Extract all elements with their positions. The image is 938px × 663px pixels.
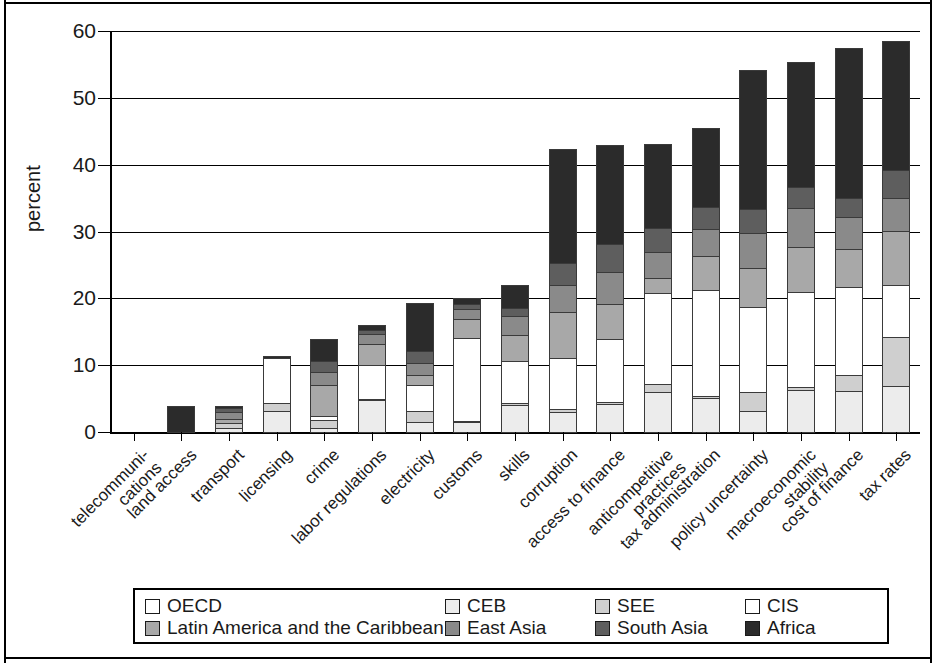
legend-label: Africa <box>767 617 816 639</box>
bar-segment <box>406 385 434 412</box>
bar-stack <box>549 149 577 432</box>
bar-segment <box>501 285 529 308</box>
bar-stack <box>835 48 863 432</box>
x-tick <box>134 432 135 441</box>
bar-segment <box>549 358 577 410</box>
bar-segment <box>549 312 577 359</box>
bar-segment <box>739 233 767 269</box>
legend-label: East Asia <box>467 617 546 639</box>
bar-stack <box>358 325 386 432</box>
x-tick <box>658 432 659 441</box>
legend-swatch <box>595 621 610 636</box>
y-tick-50 <box>98 98 110 99</box>
x-tick <box>420 432 421 441</box>
x-tick <box>324 432 325 441</box>
legend-swatch <box>745 621 760 636</box>
y-tick-20 <box>98 298 110 299</box>
y-tick-10 <box>98 365 110 366</box>
bar-stack <box>692 128 720 432</box>
x-tick <box>801 432 802 441</box>
bar-segment <box>263 411 291 433</box>
bar-segment <box>501 335 529 362</box>
figure-container: percent 0102030405060 telecommuni- catio… <box>0 0 938 663</box>
bar-segment <box>596 145 624 245</box>
y-tick-60 <box>98 31 110 32</box>
legend-item: SEE <box>595 595 745 617</box>
x-tick <box>467 432 468 441</box>
bar-segment <box>501 405 529 433</box>
y-tick-label-30: 30 <box>73 220 96 244</box>
bar-stack <box>787 62 815 432</box>
legend-item: South Asia <box>595 617 745 639</box>
bar-segment <box>882 386 910 433</box>
bar-segment <box>787 390 815 433</box>
bar-segment <box>644 252 672 279</box>
x-tick <box>706 432 707 441</box>
bar-segment <box>549 263 577 286</box>
bar-segment <box>882 41 910 171</box>
bar-segment <box>692 398 720 433</box>
x-tick <box>563 432 564 441</box>
y-tick-40 <box>98 165 110 166</box>
legend-swatch <box>445 599 460 614</box>
figure-border-left <box>4 0 6 663</box>
bar-segment <box>787 247 815 293</box>
figure-border-right <box>930 0 932 663</box>
bar-stack <box>596 145 624 432</box>
bar-segment <box>882 231 910 286</box>
bar-segment <box>406 303 434 351</box>
legend-item: OECD <box>145 595 445 617</box>
bar-segment <box>787 292 815 388</box>
legend-item: CEB <box>445 595 595 617</box>
bar-segment <box>549 149 577 264</box>
bar-segment <box>596 272 624 305</box>
bar-segment <box>358 344 386 365</box>
bar-segment <box>787 62 815 188</box>
bar-stack <box>882 41 910 432</box>
legend-swatch <box>445 621 460 636</box>
bar-segment <box>358 400 386 433</box>
bar-segment <box>358 365 386 400</box>
bar-segment <box>644 293 672 385</box>
bar-segment <box>835 249 863 288</box>
bar-segment <box>739 307 767 393</box>
bar-segment <box>787 208 815 248</box>
bar-segment <box>406 351 434 364</box>
y-tick-label-60: 60 <box>73 19 96 43</box>
figure-border-top <box>4 2 932 4</box>
bar-segment <box>310 372 338 387</box>
legend-swatch <box>145 599 160 614</box>
legend-label: CEB <box>467 595 506 617</box>
y-axis-title: percent <box>22 165 45 232</box>
bar-segment <box>596 404 624 433</box>
bar-segment <box>310 385 338 417</box>
legend-item: Latin America and the Caribbean <box>145 617 445 639</box>
bar-segment <box>787 187 815 209</box>
y-tick-label-20: 20 <box>73 286 96 310</box>
bar-segment <box>501 361 529 404</box>
legend-swatch <box>145 621 160 636</box>
bar-segment <box>835 217 863 250</box>
x-tick <box>849 432 850 441</box>
x-axis-label: customs <box>429 446 487 504</box>
x-tick <box>753 432 754 441</box>
bar-segment <box>882 285 910 338</box>
bar-segment <box>549 412 577 433</box>
x-tick <box>896 432 897 441</box>
y-tick-label-10: 10 <box>73 353 96 377</box>
bar-segment <box>644 144 672 228</box>
legend-item: CIS <box>745 595 875 617</box>
y-tick-label-0: 0 <box>84 420 96 444</box>
legend-label: Latin America and the Caribbean <box>167 617 444 639</box>
bar-segment <box>739 268 767 308</box>
x-tick <box>515 432 516 441</box>
x-tick <box>372 432 373 441</box>
legend-swatch <box>745 599 760 614</box>
bar-stack <box>215 406 243 432</box>
bar-segment <box>882 337 910 387</box>
bar-segment <box>692 207 720 230</box>
x-axis-label: skills <box>495 446 534 485</box>
bar-stack <box>644 144 672 432</box>
bar-segment <box>596 244 624 273</box>
bar-segment <box>835 375 863 392</box>
